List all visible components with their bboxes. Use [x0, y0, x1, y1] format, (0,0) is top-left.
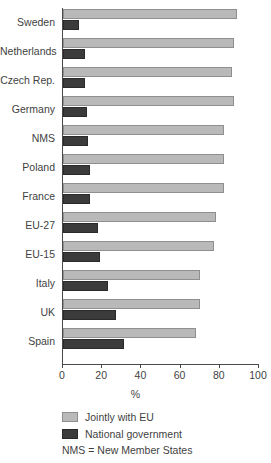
bar-group [63, 240, 259, 269]
category-label: UK [0, 298, 58, 327]
bar-national-government [63, 223, 98, 233]
bar-group [63, 124, 259, 153]
legend-swatch-icon-national-government [62, 429, 78, 439]
x-tick-label: 40 [135, 369, 147, 381]
bar-jointly-with-eu [63, 328, 196, 338]
x-axis-title: % [0, 388, 271, 400]
bar-group [63, 37, 259, 66]
plot-area: SwedenNetherlandsCzech Rep.GermanyNMSPol… [0, 0, 271, 380]
bar-jointly-with-eu [63, 270, 200, 280]
category-label: France [0, 182, 58, 211]
category-label: Germany [0, 95, 58, 124]
chart-legend: Jointly with EU National government NMS … [62, 408, 271, 456]
bar-group [63, 182, 259, 211]
bar-jointly-with-eu [63, 299, 200, 309]
bar-national-government [63, 194, 90, 204]
x-tick-mark [62, 364, 63, 368]
bar-national-government [63, 20, 79, 30]
legend-note: NMS = New Member States [62, 444, 271, 456]
bar-national-government [63, 136, 88, 146]
bars-container [63, 8, 259, 364]
bar-jointly-with-eu [63, 154, 224, 164]
category-label: NMS [0, 124, 58, 153]
category-axis-labels: SwedenNetherlandsCzech Rep.GermanyNMSPol… [0, 8, 58, 356]
x-axis-ticks: 020406080100 [62, 364, 258, 386]
bar-chart: SwedenNetherlandsCzech Rep.GermanyNMSPol… [0, 0, 271, 463]
x-tick-label: 20 [95, 369, 107, 381]
bar-group [63, 153, 259, 182]
bar-group [63, 8, 259, 37]
x-tick-label: 80 [213, 369, 225, 381]
x-tick-mark [219, 364, 220, 368]
legend-label-national-government: National government [85, 428, 182, 440]
category-label: EU-27 [0, 211, 58, 240]
legend-swatch-icon-jointly-with-eu [62, 412, 78, 422]
category-label: Czech Rep. [0, 66, 58, 95]
bar-group [63, 298, 259, 327]
legend-item-jointly-with-eu: Jointly with EU [62, 408, 271, 425]
bar-national-government [63, 281, 108, 291]
bar-jointly-with-eu [63, 183, 224, 193]
legend-label-jointly-with-eu: Jointly with EU [85, 411, 154, 423]
bar-national-government [63, 107, 87, 117]
bar-jointly-with-eu [63, 125, 224, 135]
bar-national-government [63, 310, 116, 320]
bar-national-government [63, 49, 85, 59]
category-label: Spain [0, 327, 58, 356]
x-tick-mark [101, 364, 102, 368]
bar-national-government [63, 252, 100, 262]
bar-jointly-with-eu [63, 67, 232, 77]
x-tick-label: 100 [249, 369, 267, 381]
bar-group [63, 211, 259, 240]
bar-national-government [63, 78, 85, 88]
x-tick-label: 0 [59, 369, 65, 381]
x-tick-mark [180, 364, 181, 368]
bar-group [63, 327, 259, 356]
bar-jointly-with-eu [63, 212, 216, 222]
category-label: Sweden [0, 8, 58, 37]
bar-jointly-with-eu [63, 96, 234, 106]
x-tick-mark [258, 364, 259, 368]
category-label: EU-15 [0, 240, 58, 269]
category-label: Poland [0, 153, 58, 182]
bar-jointly-with-eu [63, 38, 234, 48]
x-tick-label: 60 [174, 369, 186, 381]
bar-jointly-with-eu [63, 241, 214, 251]
x-tick-mark [140, 364, 141, 368]
bar-national-government [63, 339, 124, 349]
category-label: Netherlands [0, 37, 58, 66]
bar-national-government [63, 165, 90, 175]
bar-jointly-with-eu [63, 9, 237, 19]
bar-group [63, 66, 259, 95]
bar-group [63, 95, 259, 124]
bar-group [63, 269, 259, 298]
category-label: Italy [0, 269, 58, 298]
legend-item-national-government: National government [62, 425, 271, 442]
